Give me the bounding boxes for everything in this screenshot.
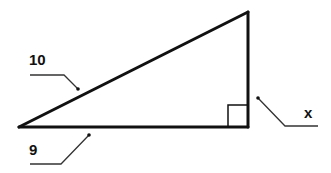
hypotenuse-leader-dot [76,87,80,91]
right-triangle [19,12,248,127]
height-callout: x [256,96,318,126]
base-label: 9 [29,141,37,158]
hypotenuse-label: 10 [29,51,46,68]
base-leader-dot [87,133,91,137]
base-callout: 9 [29,133,91,164]
triangle-diagram: 10 9 x [0,0,331,173]
base-leader-line [30,135,89,164]
height-label: x [304,104,313,121]
right-angle-marker [228,105,248,127]
hypotenuse-side [19,12,248,127]
hypotenuse-leader-line [30,75,78,89]
hypotenuse-callout: 10 [29,51,80,91]
height-leader-dot [256,96,260,100]
